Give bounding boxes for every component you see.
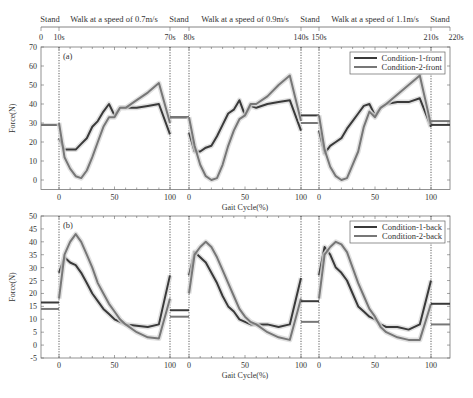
- x-tick-label: 0: [317, 361, 321, 370]
- y-tick-label: 40: [29, 238, 37, 247]
- legend-entry-condition-2: Condition-2-back: [382, 231, 443, 241]
- timeline-tick-label: 150s: [311, 33, 326, 42]
- gait-force-figure: 010s70s80s140s150s210s220sStandWalk at a…: [0, 0, 473, 398]
- y-tick-label: 60: [29, 62, 37, 71]
- x-tick-label: 0: [187, 361, 191, 370]
- timeline-segment-label: Walk at a speed of 1.1m/s: [331, 14, 419, 24]
- x-tick-label: 100: [425, 361, 437, 370]
- y-tick-label: 15: [29, 302, 37, 311]
- y-tick-label: 45: [29, 225, 37, 234]
- timeline-tick-label: 140s: [293, 33, 308, 42]
- y-tick-label: 20: [29, 138, 37, 147]
- x-axis-label: Gait Cycle(%): [222, 371, 269, 380]
- y-tick-label: 25: [29, 277, 37, 286]
- timeline-tick-label: 0: [39, 33, 43, 42]
- y-tick-label: 10: [29, 157, 37, 166]
- y-tick-label: -5: [30, 354, 37, 363]
- x-tick-label: 50: [241, 193, 249, 202]
- timeline-tick-label: 210s: [423, 33, 438, 42]
- x-tick-label: 50: [111, 361, 119, 370]
- y-tick-label: 0: [33, 176, 37, 185]
- panel-a-front-force-chart: 010203040506070Force(N)05010005010005010…: [8, 43, 450, 212]
- x-tick-label: 100: [295, 361, 307, 370]
- x-tick-label: 100: [164, 193, 176, 202]
- x-tick-label: 0: [187, 193, 191, 202]
- timeline-tick-label: 70s: [164, 33, 175, 42]
- y-tick-label: 0: [33, 341, 37, 350]
- legend: Condition-1-frontCondition-2-front: [350, 52, 445, 74]
- y-tick-label: 30: [29, 119, 37, 128]
- y-axis-label: Force(N): [8, 272, 17, 302]
- timeline-tick-label: 10s: [53, 33, 64, 42]
- legend-entry-condition-2: Condition-2-front: [382, 62, 443, 72]
- timeline-segment-label: Walk at a speed of 0.9m/s: [201, 14, 289, 24]
- timeline-segment-label: Walk at a speed of 0.7m/s: [70, 14, 158, 24]
- x-tick-label: 0: [57, 361, 61, 370]
- timeline-segment-label: Stand: [430, 14, 450, 24]
- timeline-segment-label: Stand: [300, 14, 320, 24]
- y-tick-label: 5: [33, 328, 37, 337]
- y-tick-label: 20: [29, 289, 37, 298]
- y-tick-label: 10: [29, 315, 37, 324]
- y-tick-label: 30: [29, 264, 37, 273]
- x-tick-label: 0: [57, 193, 61, 202]
- y-tick-label: 35: [29, 251, 37, 260]
- x-tick-label: 0: [317, 193, 321, 202]
- timeline-segment-label: Stand: [169, 14, 189, 24]
- x-tick-label: 100: [164, 361, 176, 370]
- timeline-tick-label: 220s: [448, 33, 463, 42]
- x-tick-label: 50: [371, 193, 379, 202]
- y-tick-label: 70: [29, 43, 37, 52]
- y-tick-label: 50: [29, 212, 37, 221]
- x-tick-label: 50: [371, 361, 379, 370]
- timeline-tick-label: 80s: [183, 33, 194, 42]
- legend: Condition-1-backCondition-2-back: [350, 221, 445, 243]
- x-axis-label: Gait Cycle(%): [222, 203, 269, 212]
- x-tick-label: 100: [295, 193, 307, 202]
- panel-label: (b): [63, 220, 73, 230]
- y-tick-label: 50: [29, 81, 37, 90]
- x-tick-label: 50: [111, 193, 119, 202]
- panel-b-back-force-chart: -505101520253035404550Force(N)0501000501…: [8, 212, 450, 380]
- y-tick-label: 40: [29, 100, 37, 109]
- panel-label: (a): [63, 51, 73, 61]
- y-axis-label: Force(N): [8, 103, 17, 133]
- timeline-axis: 010s70s80s140s150s210s220sStandWalk at a…: [39, 14, 464, 42]
- x-tick-label: 100: [425, 193, 437, 202]
- x-tick-label: 50: [241, 361, 249, 370]
- timeline-segment-label: Stand: [40, 14, 60, 24]
